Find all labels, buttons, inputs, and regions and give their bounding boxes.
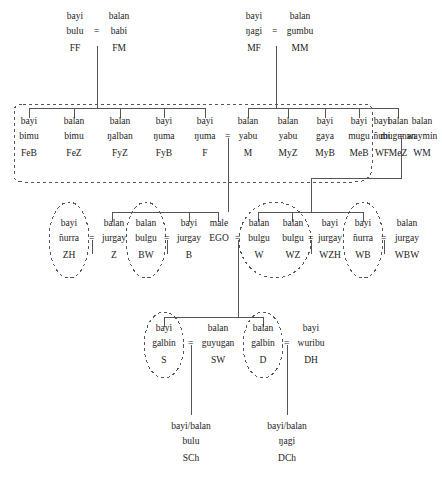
node-FyB-abbr: FyB <box>144 147 184 164</box>
node-SW-term: guyugan <box>193 339 243 354</box>
node-MM: balan gumbu MM <box>278 12 322 59</box>
node-M-gender: balan <box>230 117 266 132</box>
node-WF-gender: bayi <box>362 117 402 132</box>
node-MyB-abbr: MyB <box>306 147 344 164</box>
node-MyB-gender: bayi <box>306 117 344 132</box>
node-D: balan galbin D <box>243 324 283 371</box>
node-S-term: galbin <box>144 339 184 354</box>
node-WBW-term: jurgay <box>384 234 430 249</box>
node-ZH-gender: bayi <box>49 219 89 234</box>
node-WM-term: waymin <box>402 132 442 147</box>
node-FeZ: balan bimu FeZ <box>54 117 94 164</box>
node-WF-term: ñubi <box>362 132 402 147</box>
node-S-abbr: S <box>144 354 184 371</box>
node-FeB-term: bimu <box>9 132 49 147</box>
node-FeZ-term: bimu <box>54 132 94 147</box>
marriage-MF-MM: = <box>272 27 277 37</box>
node-MF: bayi ŋagi MF <box>234 12 274 59</box>
node-SCh-term: bulu <box>156 437 226 452</box>
node-SW-abbr: SW <box>193 354 243 371</box>
node-MyZ: balan yabu MyZ <box>270 117 306 164</box>
node-F-abbr: F <box>185 147 225 164</box>
node-WBW: balan jurgay WBW <box>384 219 430 266</box>
node-FM-abbr: FM <box>99 42 139 59</box>
node-ZH-abbr: ZH <box>49 249 89 266</box>
node-WF-abbr: WF <box>362 147 402 164</box>
node-FM-gender: balan <box>99 12 139 27</box>
node-SW: balan guyugan SW <box>193 324 243 371</box>
node-FyB: bayi ŋuma FyB <box>144 117 184 164</box>
node-FF-term: bulu <box>55 27 95 42</box>
node-FyB-term: ŋuma <box>144 132 184 147</box>
node-D-abbr: D <box>243 354 283 371</box>
node-MyZ-abbr: MyZ <box>270 147 306 164</box>
node-DH: bayi wuribu DH <box>288 324 334 371</box>
node-ZH: bayi ñurra ZH <box>49 219 89 266</box>
node-M-abbr: M <box>230 147 266 164</box>
node-FyZ: balan ŋalban FyZ <box>98 117 142 164</box>
node-MyZ-term: yabu <box>270 132 306 147</box>
node-S: bayi galbin S <box>144 324 184 371</box>
node-SCh-gender: bayi/balan <box>156 422 226 437</box>
node-FeZ-gender: balan <box>54 117 94 132</box>
node-EGO: male EGO <box>200 219 238 249</box>
node-MF-abbr: MF <box>234 42 274 59</box>
node-DH-gender: bayi <box>288 324 334 339</box>
node-FeZ-abbr: FeZ <box>54 147 94 164</box>
node-EGO-gender: male <box>200 219 238 234</box>
node-M: balan yabu M <box>230 117 266 164</box>
node-DH-term: wuribu <box>288 339 334 354</box>
node-MF-term: ŋagi <box>234 27 274 42</box>
node-FeB-abbr: FeB <box>9 147 49 164</box>
marriage-FF-FM: = <box>94 27 99 37</box>
node-WM-gender: balan <box>402 117 442 132</box>
node-S-gender: bayi <box>144 324 184 339</box>
node-BW-abbr: BW <box>126 249 166 266</box>
node-DH-abbr: DH <box>288 354 334 371</box>
node-M-term: yabu <box>230 132 266 147</box>
node-ZH-term: ñurra <box>49 234 89 249</box>
node-FyB-gender: bayi <box>144 117 184 132</box>
node-SW-gender: balan <box>193 324 243 339</box>
node-WB-abbr: WB <box>343 249 383 266</box>
node-DCh-abbr: DCh <box>252 452 322 469</box>
node-D-term: galbin <box>243 339 283 354</box>
node-MF-gender: bayi <box>234 12 274 27</box>
node-D-gender: balan <box>243 324 283 339</box>
node-EGO-label: EGO <box>200 234 238 249</box>
node-DCh: bayi/balan ŋagi DCh <box>252 422 322 469</box>
node-WM: balan waymin WM <box>402 117 442 164</box>
node-F-gender: bayi <box>185 117 225 132</box>
node-B-abbr: B <box>169 249 209 266</box>
node-FeB-gender: bayi <box>9 117 49 132</box>
node-MM-gender: balan <box>278 12 322 27</box>
node-DCh-gender: bayi/balan <box>252 422 322 437</box>
node-W: balan bulgu W <box>240 219 278 266</box>
node-F: bayi ŋuma F <box>185 117 225 164</box>
node-FyZ-term: ŋalban <box>98 132 142 147</box>
node-WBW-gender: balan <box>384 219 430 234</box>
node-FeB: bayi bimu FeB <box>9 117 49 164</box>
node-FyZ-abbr: FyZ <box>98 147 142 164</box>
node-SCh: bayi/balan bulu SCh <box>156 422 226 469</box>
node-FM: balan babi FM <box>99 12 139 59</box>
node-W-gender: balan <box>240 219 278 234</box>
node-FF-gender: bayi <box>55 12 95 27</box>
node-FF-abbr: FF <box>55 42 95 59</box>
node-FyZ-gender: balan <box>98 117 142 132</box>
node-WZ-abbr: WZ <box>274 249 312 266</box>
node-MyB: bayi gaya MyB <box>306 117 344 164</box>
node-BW-term: bulgu <box>126 234 166 249</box>
node-SCh-abbr: SCh <box>156 452 226 469</box>
node-WZ-term: bulgu <box>274 234 312 249</box>
node-W-term: bulgu <box>240 234 278 249</box>
node-WB: bayi ñurra WB <box>343 219 383 266</box>
node-MM-term: gumbu <box>278 27 322 42</box>
node-WF: bayi ñubi WF <box>362 117 402 164</box>
node-WB-gender: bayi <box>343 219 383 234</box>
node-DCh-term: ŋagi <box>252 437 322 452</box>
node-F-term: ŋuma <box>185 132 225 147</box>
node-MyZ-gender: balan <box>270 117 306 132</box>
node-WZ-gender: balan <box>274 219 312 234</box>
node-WB-term: ñurra <box>343 234 383 249</box>
